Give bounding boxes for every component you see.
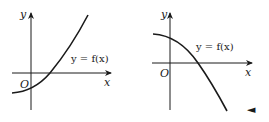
- left-curve-label: y = f(x): [70, 53, 109, 64]
- pointer-arrow-icon: ◄: [247, 103, 256, 116]
- left-y-label: y: [19, 8, 27, 21]
- left-graph: O x y y = f(x): [12, 8, 111, 110]
- right-origin-label: O: [160, 67, 169, 80]
- right-graph: O x y y = f(x): [152, 8, 252, 111]
- left-x-label: x: [104, 76, 111, 89]
- right-curve-label: y = f(x): [195, 41, 234, 52]
- right-x-label: x: [245, 66, 252, 79]
- right-y-label: y: [160, 8, 168, 21]
- figure: O x y y = f(x) O x y y = f(x) ◄: [0, 0, 269, 122]
- left-origin-label: O: [20, 78, 29, 91]
